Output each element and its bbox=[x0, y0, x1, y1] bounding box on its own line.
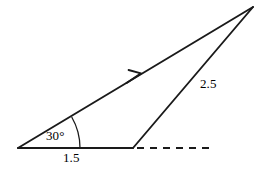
triangle-figure: 30° 1.5 2.5 bbox=[0, 0, 261, 169]
angle-arc bbox=[72, 117, 80, 148]
base-length-label: 1.5 bbox=[63, 151, 80, 164]
right-segment-line bbox=[133, 7, 253, 148]
triangle-svg-canvas bbox=[0, 0, 261, 169]
right-side-length-label: 2.5 bbox=[200, 77, 217, 90]
angle-label: 30° bbox=[46, 129, 65, 142]
